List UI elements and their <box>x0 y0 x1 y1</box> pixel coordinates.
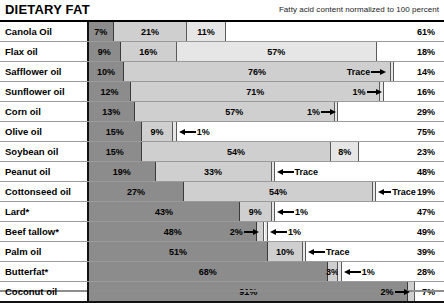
row-label: Peanut oil <box>5 162 50 181</box>
segment-value: 48% <box>417 167 435 177</box>
table-row: Corn oil13%57%1%29% <box>0 102 444 122</box>
chart-header: DIETARY FAT Fatty acid content normalize… <box>0 0 444 22</box>
table-row: Coconut oil91%2%7% <box>0 282 444 303</box>
table-row: Sunflower oil12%71%1%16% <box>0 82 444 102</box>
label-divider <box>87 242 89 261</box>
segment-value: 9% <box>150 127 163 137</box>
label-divider <box>87 282 89 301</box>
segment-value: 8% <box>338 147 351 157</box>
segment-value: 10% <box>276 247 294 257</box>
bar-segment: 9% <box>89 42 121 61</box>
segment-value: 47% <box>417 207 435 217</box>
row-bars: 68%3%1%28% <box>89 262 444 281</box>
segment-value: 14% <box>417 67 435 77</box>
bar-segment: 14% <box>394 62 440 81</box>
bar-segment: 27% <box>89 182 184 201</box>
bar-segment: 39% <box>306 242 440 261</box>
bar-segment: 10% <box>89 62 124 81</box>
bar-segment: 43% <box>89 202 240 221</box>
row-label: Safflower oil <box>5 62 61 81</box>
bar-segment: 76% <box>124 62 391 81</box>
bar-segment: 33% <box>156 162 272 181</box>
bar-segment: 16% <box>384 82 440 101</box>
segment-value: 54% <box>227 147 245 157</box>
segment-value: 49% <box>417 227 435 237</box>
bar-segment: 54% <box>184 182 374 201</box>
bar-segment: 61% <box>226 22 440 41</box>
label-divider <box>87 142 89 161</box>
label-divider <box>87 162 89 181</box>
table-row: Safflower oil10%76%Trace14% <box>0 62 444 82</box>
segment-value: 68% <box>199 267 217 277</box>
bar-segment: 21% <box>114 22 188 41</box>
bar-segment: 19% <box>376 182 440 201</box>
label-divider <box>87 262 89 281</box>
segment-value: 71% <box>246 87 264 97</box>
row-bars: 27%54%Trace19% <box>89 182 444 201</box>
table-row: Butterfat*68%3%1%28% <box>0 262 444 282</box>
row-bars: 19%33%Trace48% <box>89 162 444 181</box>
segment-value: 18% <box>417 47 435 57</box>
segment-value: 76% <box>248 67 266 77</box>
bar-segment: 54% <box>142 142 332 161</box>
segment-value: 61% <box>417 27 435 37</box>
label-divider <box>87 182 89 201</box>
segment-value: 29% <box>417 107 435 117</box>
bar-segment: 8% <box>331 142 359 161</box>
bar-segment: 10% <box>268 242 303 261</box>
segment-value: 19% <box>417 187 435 197</box>
bar-segment: 49% <box>268 222 440 241</box>
segment-value: 54% <box>269 187 287 197</box>
segment-value: 7% <box>94 27 107 37</box>
row-bars: 7%21%11%61% <box>89 22 444 41</box>
table-row: Flax oil9%16%57%18% <box>0 42 444 62</box>
bar-segment: 12% <box>89 82 131 101</box>
segment-value: 13% <box>102 107 120 117</box>
table-row: Peanut oil19%33%Trace48% <box>0 162 444 182</box>
label-divider <box>87 202 89 221</box>
row-label: Butterfat* <box>5 262 48 281</box>
page-title: DIETARY FAT <box>5 2 90 17</box>
row-bars: 10%76%Trace14% <box>89 62 444 81</box>
segment-value: 15% <box>106 147 124 157</box>
label-divider <box>87 82 89 101</box>
label-divider <box>87 222 89 241</box>
row-label: Canola Oil <box>5 22 52 41</box>
bar-segment: 9% <box>142 122 174 141</box>
segment-value: 39% <box>417 247 435 257</box>
segment-value: 16% <box>139 47 157 57</box>
bar-segment: 16% <box>121 42 177 61</box>
bar-segment: 48% <box>275 162 440 181</box>
label-divider <box>87 62 89 81</box>
bar-segment: 13% <box>89 102 135 121</box>
bar-segment: 29% <box>338 102 440 121</box>
row-bars: 12%71%1%16% <box>89 82 444 101</box>
row-bars: 48%2%1%49% <box>89 222 444 241</box>
table-row: Canola Oil7%21%11%61% <box>0 22 444 42</box>
bottom-rule <box>0 290 444 292</box>
segment-value: 9% <box>98 47 111 57</box>
bar-segment: 51% <box>89 242 268 261</box>
label-divider <box>87 102 89 121</box>
bar-segment: 57% <box>135 102 335 121</box>
label-divider <box>87 122 89 141</box>
bar-segment: 15% <box>89 142 142 161</box>
row-label: Olive oil <box>5 122 42 141</box>
bar-segment: 48% <box>89 222 257 241</box>
bar-segment: 9% <box>240 202 272 221</box>
segment-value: 43% <box>155 207 173 217</box>
table-row: Olive oil15%9%1%75% <box>0 122 444 142</box>
label-divider <box>87 42 89 61</box>
bar-segment: 75% <box>177 122 440 141</box>
segment-value: 16% <box>417 87 435 97</box>
bar-segment: 18% <box>377 42 440 61</box>
segment-value: 15% <box>106 127 124 137</box>
segment-value: 27% <box>127 187 145 197</box>
bar-segment: 7% <box>89 22 114 41</box>
segment-value: 10% <box>97 67 115 77</box>
segment-value: 11% <box>197 27 215 37</box>
segment-value: 75% <box>417 127 435 137</box>
bar-segment <box>257 222 264 241</box>
row-label: Sunflower oil <box>5 82 65 101</box>
